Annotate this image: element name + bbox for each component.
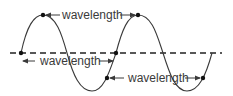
- label-zero-to-zero: wavelength: [39, 54, 101, 68]
- label-trough-to-trough: wavelength: [127, 71, 189, 85]
- label-crest-to-crest: wavelength: [61, 8, 123, 22]
- wavelength-diagram: wavelength wavelength wavelength: [0, 0, 233, 96]
